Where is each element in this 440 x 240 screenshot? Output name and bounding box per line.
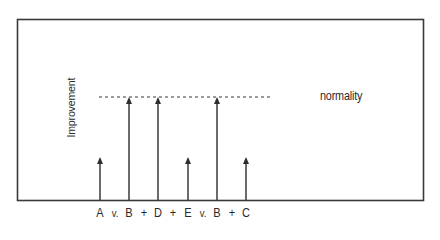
sequence-label: v.	[200, 207, 207, 219]
arrowhead-icon	[97, 157, 103, 164]
sequence-label: A	[96, 205, 103, 220]
y-axis-label: Improvement	[65, 80, 77, 137]
sequence-label: B	[125, 205, 132, 220]
sequence-label: +	[170, 205, 176, 220]
sequence-label: v.	[112, 207, 119, 219]
arrowhead-icon	[243, 157, 249, 164]
sequence-label: +	[229, 205, 235, 220]
arrowhead-icon	[185, 157, 191, 164]
arrow-group	[97, 97, 249, 200]
sequence-label: C	[242, 205, 250, 220]
sequence-label: +	[141, 205, 147, 220]
arrowhead-icon	[155, 97, 161, 104]
sequence-label: E	[184, 205, 191, 220]
normality-label: normality	[320, 89, 362, 103]
diagram-frame	[18, 20, 424, 201]
sequence-label: D	[154, 205, 162, 220]
sequence-label: B	[213, 205, 220, 220]
arrowhead-icon	[126, 97, 132, 104]
arrowhead-icon	[214, 97, 220, 104]
